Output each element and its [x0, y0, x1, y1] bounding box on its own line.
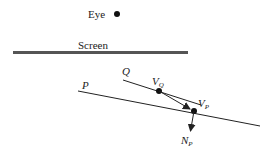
normal-arrow: [191, 111, 195, 131]
vp-label: VP: [198, 97, 210, 111]
screen-label: Screen: [78, 39, 108, 51]
eye-label: Eye: [88, 8, 105, 20]
screen-line: [13, 51, 188, 54]
perspective-diagram: Eye Screen Q P VQ VP NP: [0, 0, 274, 155]
eye-point: [114, 11, 120, 17]
p-label: P: [81, 79, 89, 91]
vq-label: VQ: [152, 75, 164, 89]
np-label: NP: [180, 134, 193, 148]
q-label: Q: [122, 65, 130, 77]
